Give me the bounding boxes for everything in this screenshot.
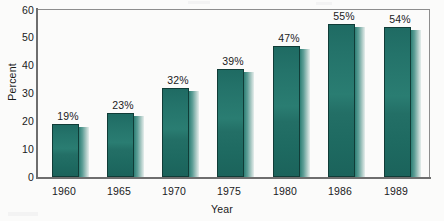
bar-front-face [273,46,300,177]
bar-front-face [107,113,134,177]
scan-artifact [316,2,332,5]
bar-chart: Percent 60 50 40 30 20 10 0 19% 23% 32% … [0,0,444,221]
bar-value-label: 47% [269,32,309,44]
x-tick-label-1980: 1980 [257,185,313,197]
bar-front-face [328,24,355,177]
y-tick-label-40: 40 [8,60,34,70]
x-tick-label-1975: 1975 [201,185,257,197]
y-tick-label-50: 50 [8,32,34,42]
x-tick-label-1986: 1986 [312,185,368,197]
bar-side-face [300,49,310,177]
y-tick-label-30: 30 [8,88,34,98]
x-tick-label-1989: 1989 [368,185,424,197]
bar-side-face [244,72,254,177]
bar-value-label: 32% [158,74,198,86]
bar-front-face [384,27,411,177]
y-tick-label-20: 20 [8,116,34,126]
plot-area: 19% 23% 32% 39% 47% 55% [36,9,430,178]
y-axis-line [36,8,38,179]
bar-value-label: 39% [213,55,253,67]
x-tick-label-1970: 1970 [146,185,202,197]
bar-front-face [162,88,189,177]
y-tick-label-60: 60 [8,5,34,15]
x-tick-label-1965: 1965 [91,185,147,197]
bar-value-label: 23% [103,99,143,111]
scan-artifact [188,1,210,4]
bar-side-face [189,91,199,177]
bar-front-face [52,124,79,177]
bar-side-face [355,27,365,177]
y-tick-label-0: 0 [8,172,34,182]
bar-side-face [411,30,421,177]
bar-value-label: 55% [324,10,364,22]
y-tick-label-10: 10 [8,144,34,154]
x-axis-line [36,177,431,179]
bar-value-label: 54% [380,13,420,25]
x-axis-title: Year [0,203,444,215]
x-tick-label-1960: 1960 [36,185,92,197]
bar-side-face [134,116,144,177]
bar-value-label: 19% [48,110,88,122]
y-axis-title: Percent [6,47,18,117]
bar-front-face [217,69,244,177]
bar-side-face [79,127,89,177]
